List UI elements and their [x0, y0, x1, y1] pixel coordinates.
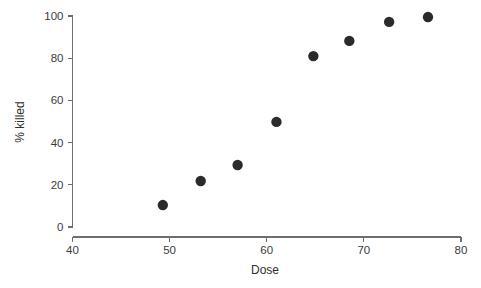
chart-canvas: 020406080100 4050607080 Dose % killed: [0, 0, 481, 288]
x-tick-label: 80: [455, 244, 468, 256]
x-tick-label: 50: [163, 244, 176, 256]
x-tick-label: 70: [357, 244, 370, 256]
y-tick-label: 80: [51, 52, 64, 64]
data-point: [271, 117, 281, 127]
data-points: [158, 12, 434, 210]
y-tick-label: 20: [51, 179, 64, 191]
data-point: [423, 12, 433, 22]
y-tick-label: 60: [51, 94, 64, 106]
x-axis-ticks: 4050607080: [66, 237, 467, 256]
data-point: [232, 160, 242, 170]
y-axis-ticks: 020406080100: [44, 10, 72, 233]
x-tick-label: 40: [66, 244, 79, 256]
data-point: [384, 17, 394, 27]
y-axis: 020406080100: [44, 10, 72, 233]
data-point: [344, 36, 354, 46]
data-point: [158, 200, 168, 210]
y-tick-label: 100: [44, 10, 63, 22]
x-axis: 4050607080: [66, 237, 467, 256]
y-axis-title: % killed: [13, 101, 27, 142]
data-point: [196, 176, 206, 186]
data-point: [308, 51, 318, 61]
y-tick-label: 40: [51, 137, 64, 149]
x-axis-title: Dose: [251, 263, 279, 277]
y-tick-label: 0: [57, 221, 63, 233]
x-tick-label: 60: [260, 244, 273, 256]
scatter-chart: 020406080100 4050607080 Dose % killed: [0, 0, 481, 288]
